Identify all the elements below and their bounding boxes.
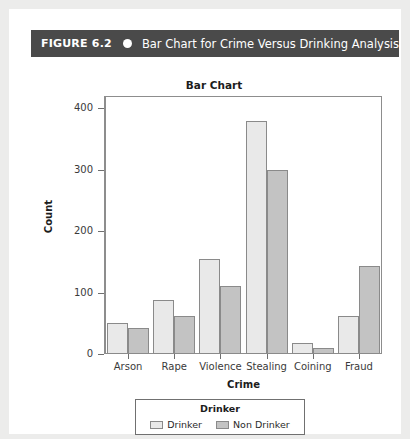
bar-coining-drinker: [292, 343, 313, 354]
figure-caption-text: Bar Chart for Crime Versus Drinking Anal…: [142, 37, 399, 51]
chart-legend: Drinker DrinkerNon Drinker: [135, 399, 305, 435]
bar-rape-drinker: [153, 300, 174, 354]
y-axis-tick: [98, 293, 104, 294]
legend-item-non-drinker: Non Drinker: [216, 419, 290, 430]
bar-fraud-non-drinker: [359, 266, 380, 354]
y-axis-tick: [98, 170, 104, 171]
y-axis-tick: [98, 354, 104, 355]
y-axis-tick: [98, 231, 104, 232]
y-axis-tick-label: 200: [51, 226, 93, 236]
bar-arson-non-drinker: [128, 328, 149, 354]
bar-stealing-non-drinker: [267, 170, 288, 354]
y-axis-tick: [98, 108, 104, 109]
chart-title: Bar Chart: [9, 79, 410, 91]
bar-violence-drinker: [199, 259, 220, 354]
legend-swatch-icon: [150, 421, 163, 429]
bar-chart: Bar Chart Count 0100200300400 ArsonRapeV…: [9, 69, 410, 439]
y-axis-spine: [104, 96, 105, 354]
y-axis-tick-label: 300: [51, 165, 93, 175]
x-axis-tick: [359, 354, 360, 359]
legend-item-drinker: Drinker: [150, 419, 202, 430]
legend-title: Drinker: [136, 403, 304, 414]
x-axis-tick: [267, 354, 268, 359]
bar-fraud-drinker: [338, 316, 359, 354]
bar-violence-non-drinker: [220, 286, 241, 354]
y-axis-title: Count: [43, 177, 54, 257]
x-axis-tick: [174, 354, 175, 359]
legend-label: Drinker: [167, 419, 202, 430]
filled-circle-icon: [123, 39, 132, 48]
bar-arson-drinker: [107, 323, 128, 354]
figure-caption-bar: FIGURE 6.2 Bar Chart for Crime Versus Dr…: [31, 30, 399, 57]
figure-number-label: FIGURE 6.2: [41, 37, 112, 50]
x-axis-tick: [313, 354, 314, 359]
y-axis-tick-label: 400: [51, 103, 93, 113]
bar-coining-non-drinker: [313, 348, 334, 354]
x-axis-tick: [128, 354, 129, 359]
legend-items: DrinkerNon Drinker: [136, 419, 304, 430]
x-axis-tick-label-fraud: Fraud: [321, 361, 397, 372]
bar-stealing-drinker: [246, 121, 267, 354]
bar-rape-non-drinker: [174, 316, 195, 354]
legend-swatch-icon: [216, 421, 229, 429]
y-axis-tick-label: 100: [51, 288, 93, 298]
page-sheet: FIGURE 6.2 Bar Chart for Crime Versus Dr…: [9, 9, 401, 434]
x-axis-title: Crime: [105, 379, 382, 390]
legend-label: Non Drinker: [233, 419, 290, 430]
y-axis-tick-label: 0: [51, 349, 93, 359]
x-axis-tick: [220, 354, 221, 359]
